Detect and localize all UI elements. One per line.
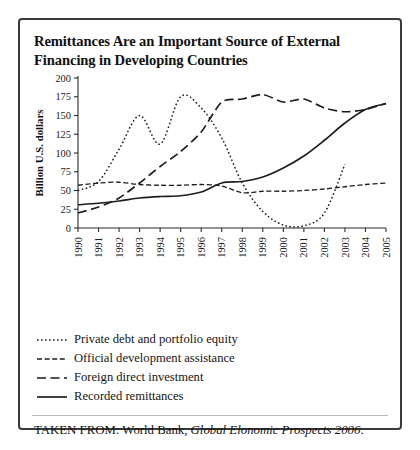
source-divider [32,415,388,416]
source-suffix: . [360,423,363,437]
x-tick-label: 1998 [237,237,248,258]
legend-label: Foreign direct investment [74,370,203,385]
y-tick-label: 25 [61,204,71,215]
x-tick-label: 2002 [319,237,330,258]
chart-plot-area: 0255075100125150175200 19901991199219931… [32,72,392,284]
series-line [78,182,386,193]
legend-item: Private debt and portfolio equity [36,330,388,349]
legend-item: Foreign direct investment [36,368,388,387]
source-prefix: TAKEN FROM: World Bank, [34,423,187,437]
line-chart: 0255075100125150175200 19901991199219931… [32,72,392,284]
chart-legend: Private debt and portfolio equityOfficia… [36,330,388,406]
y-tick-label: 0 [66,223,71,234]
x-tick-label: 1999 [257,237,268,258]
x-tick-label: 1991 [93,237,104,258]
figure-title: Remittances Are an Important Source of E… [34,32,388,70]
legend-swatch-dotted [36,334,68,346]
y-axis-ticks: 0255075100125150175200 [55,73,78,234]
x-tick-label: 2005 [381,237,392,258]
y-tick-label: 50 [61,185,71,196]
x-tick-label: 2003 [340,237,351,258]
y-tick-label: 75 [61,166,71,177]
x-tick-label: 1990 [73,237,84,258]
legend-swatch-solid [36,391,68,403]
y-tick-label: 125 [55,129,71,140]
x-axis-ticks: 1990199119921993199419951996199719981999… [73,228,392,258]
legend-swatch-dash-long [36,372,68,384]
y-tick-label: 100 [55,148,71,159]
series-line [78,94,386,213]
x-tick-label: 1996 [196,237,207,258]
legend-label: Official development assistance [74,351,235,366]
legend-label: Recorded remittances [74,389,183,404]
y-tick-label: 200 [55,73,71,84]
y-tick-label: 175 [55,91,71,102]
x-tick-label: 2000 [278,237,289,258]
x-tick-label: 1994 [155,236,166,258]
y-tick-label: 150 [55,110,71,121]
source-title: Global Elonomic Prospects 2006 [191,423,361,437]
x-tick-label: 2004 [360,236,371,258]
x-tick-label: 1995 [175,237,186,258]
legend-item: Recorded remittances [36,387,388,406]
legend-item: Official development assistance [36,349,388,368]
x-tick-label: 1992 [114,237,125,258]
figure-card: Remittances Are an Important Source of E… [18,18,402,430]
x-tick-label: 1993 [134,237,145,258]
y-axis-title: Billion U.S. dollars [33,110,45,197]
legend-swatch-dash-dot-short [36,353,68,365]
source-attribution: TAKEN FROM: World Bank, Global Elonomic … [34,423,388,438]
legend-label: Private debt and portfolio equity [74,332,238,347]
series-group [78,94,386,227]
x-tick-label: 1997 [216,237,227,258]
x-tick-label: 2001 [298,237,309,258]
